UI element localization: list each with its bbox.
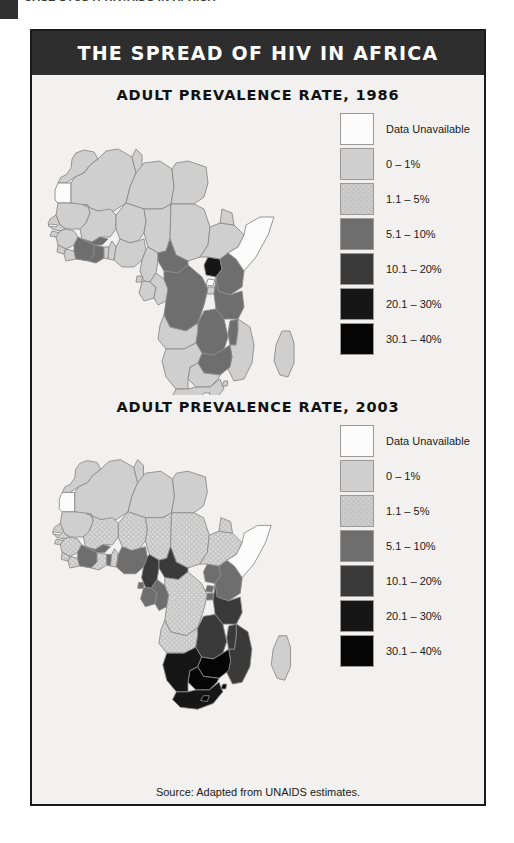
legend-item[interactable]: Data Unavailable — [340, 111, 484, 146]
screenshot-root: CASE STUDY: HIV/AIDS IN AFRICA THE SPREA… — [0, 0, 514, 843]
cropped-header-text: CASE STUDY: HIV/AIDS IN AFRICA — [24, 0, 244, 5]
figure-title-bar: THE SPREAD OF HIV IN AFRICA — [32, 31, 484, 75]
legend-item[interactable]: 5.1 – 10% — [340, 216, 484, 251]
legend-item[interactable]: 0 – 1% — [340, 146, 484, 181]
map-africa-1986[interactable] — [32, 105, 338, 395]
source-note: Source: Adapted from UNAIDS estimates. — [32, 782, 484, 800]
map-block-2003: ADULT PREVALENCE RATE, 2003 — [32, 387, 484, 717]
map-block-1986: ADULT PREVALENCE RATE, 1986 — [32, 75, 484, 395]
map-africa-2003[interactable] — [32, 417, 338, 717]
legend-label: 10.1 – 20% — [386, 263, 442, 275]
legend-label: 0 – 1% — [386, 158, 420, 170]
legend-swatch — [340, 253, 374, 285]
legend-swatch — [340, 460, 374, 492]
legend-swatch — [340, 425, 374, 457]
source-text: Source: Adapted from UNAIDS estimates. — [156, 786, 360, 798]
map-subtitle-2003: ADULT PREVALENCE RATE, 2003 — [32, 387, 484, 417]
legend-item[interactable]: 30.1 – 40% — [340, 321, 484, 356]
legend-item[interactable]: 1.1 – 5% — [340, 181, 484, 216]
africa-choropleth-2003[interactable] — [38, 417, 338, 717]
figure-title: THE SPREAD OF HIV IN AFRICA — [78, 42, 439, 64]
legend-item[interactable]: 1.1 – 5% — [340, 493, 484, 528]
figure-panel: THE SPREAD OF HIV IN AFRICA ADULT PREVAL… — [30, 29, 486, 806]
legend-label: 30.1 – 40% — [386, 333, 442, 345]
legend-label: 5.1 – 10% — [386, 228, 436, 240]
legend-item[interactable]: 5.1 – 10% — [340, 528, 484, 563]
legend-swatch — [340, 148, 374, 180]
legend-item[interactable]: 20.1 – 30% — [340, 286, 484, 321]
africa-choropleth-1986[interactable] — [38, 105, 338, 395]
legend-label: 30.1 – 40% — [386, 645, 442, 657]
cropped-thumbnail-artifact — [0, 0, 18, 19]
legend-label: Data Unavailable — [386, 123, 470, 135]
legend-swatch — [340, 323, 374, 355]
legend-swatch — [340, 113, 374, 145]
legend-swatch — [340, 530, 374, 562]
legend-label: 20.1 – 30% — [386, 298, 442, 310]
legend-swatch — [340, 288, 374, 320]
legend-swatch — [340, 565, 374, 597]
legend-item[interactable]: 0 – 1% — [340, 458, 484, 493]
legend-label: 20.1 – 30% — [386, 610, 442, 622]
legend-item[interactable]: 10.1 – 20% — [340, 563, 484, 598]
legend-2003: Data Unavailable 0 – 1% 1.1 – 5% 5.1 – 1… — [338, 417, 484, 668]
legend-swatch — [340, 218, 374, 250]
legend-1986: Data Unavailable 0 – 1% 1.1 – 5% 5.1 – 1… — [338, 105, 484, 356]
legend-swatch — [340, 635, 374, 667]
legend-label: 5.1 – 10% — [386, 540, 436, 552]
legend-label: 1.1 – 5% — [386, 505, 429, 517]
legend-label: 10.1 – 20% — [386, 575, 442, 587]
legend-label: Data Unavailable — [386, 435, 470, 447]
legend-item[interactable]: 30.1 – 40% — [340, 633, 484, 668]
legend-label: 1.1 – 5% — [386, 193, 429, 205]
map-subtitle-1986: ADULT PREVALENCE RATE, 1986 — [32, 75, 484, 105]
legend-label: 0 – 1% — [386, 470, 420, 482]
legend-swatch — [340, 600, 374, 632]
legend-swatch — [340, 183, 374, 215]
legend-swatch — [340, 495, 374, 527]
legend-item[interactable]: 10.1 – 20% — [340, 251, 484, 286]
legend-item[interactable]: Data Unavailable — [340, 423, 484, 458]
legend-item[interactable]: 20.1 – 30% — [340, 598, 484, 633]
